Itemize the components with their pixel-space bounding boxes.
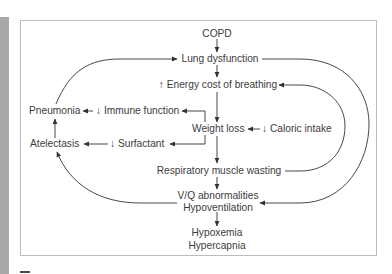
node-hypoxemia: Hypoxemia bbox=[192, 227, 243, 239]
node-vq-abnormalities: V/Q abnormalities bbox=[178, 190, 259, 202]
node-atelectasis: Atelectasis bbox=[30, 138, 79, 150]
node-energy-cost: ↑ Energy cost of breathing bbox=[159, 79, 277, 91]
node-surfactant: ↓ Surfactant bbox=[110, 138, 164, 150]
node-immune-function: ↓ Immune function bbox=[96, 105, 179, 117]
node-pneumonia: Pneumonia bbox=[29, 105, 81, 117]
node-lung-dysfunction: Lung dysfunction bbox=[181, 53, 258, 65]
node-respiratory-muscle-wasting: Respiratory muscle wasting bbox=[157, 165, 282, 177]
node-copd: COPD bbox=[202, 28, 231, 40]
node-hypercapnia: Hypercapnia bbox=[188, 240, 245, 252]
node-hypoventilation: Hypoventilation bbox=[183, 202, 253, 214]
node-weight-loss: Weight loss bbox=[192, 123, 244, 135]
node-caloric-intake: ↓ Caloric intake bbox=[262, 123, 332, 135]
